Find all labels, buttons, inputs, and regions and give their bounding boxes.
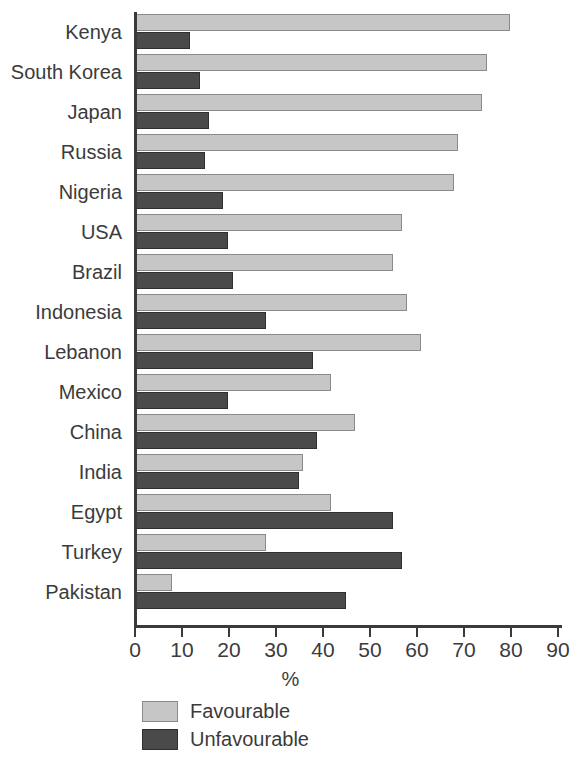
bar-unfavourable-russia: [134, 152, 205, 169]
bar-unfavourable-lebanon: [134, 352, 313, 369]
x-axis-title: %: [0, 668, 581, 691]
bar-favourable-russia: [134, 134, 458, 151]
bar-row: [134, 412, 558, 452]
bar-unfavourable-japan: [134, 112, 209, 129]
category-label-south-korea: South Korea: [11, 62, 122, 82]
x-tick: [275, 628, 277, 637]
bar-unfavourable-china: [134, 432, 317, 449]
category-label-usa: USA: [81, 222, 122, 242]
category-label-brazil: Brazil: [72, 262, 122, 282]
x-tick: [510, 628, 512, 637]
bar-row: [134, 12, 558, 52]
bar-favourable-egypt: [134, 494, 331, 511]
bar-unfavourable-nigeria: [134, 192, 223, 209]
x-tick: [557, 628, 559, 637]
category-label-kenya: Kenya: [65, 22, 122, 42]
category-label-nigeria: Nigeria: [59, 182, 122, 202]
x-tick: [181, 628, 183, 637]
legend-label: Unfavourable: [190, 728, 309, 751]
bar-favourable-nigeria: [134, 174, 454, 191]
bar-row: [134, 492, 558, 532]
category-label-russia: Russia: [61, 142, 122, 162]
x-tick: [228, 628, 230, 637]
x-tick-label: 0: [129, 638, 141, 662]
bar-unfavourable-south-korea: [134, 72, 200, 89]
legend-swatch-unfav: [142, 729, 178, 750]
bar-row: [134, 532, 558, 572]
bar-row: [134, 52, 558, 92]
bar-favourable-india: [134, 454, 303, 471]
category-label-turkey: Turkey: [62, 542, 122, 562]
bar-favourable-brazil: [134, 254, 393, 271]
category-axis-labels: KenyaSouth KoreaJapanRussiaNigeriaUSABra…: [0, 12, 128, 624]
bar-favourable-usa: [134, 214, 402, 231]
bar-row: [134, 252, 558, 292]
x-tick-label: 40: [311, 638, 334, 662]
bar-unfavourable-brazil: [134, 272, 233, 289]
x-tick: [369, 628, 371, 637]
category-label-pakistan: Pakistan: [45, 582, 122, 602]
x-tick-label: 70: [452, 638, 475, 662]
bar-row: [134, 92, 558, 132]
legend: FavourableUnfavourable: [142, 697, 309, 753]
x-tick-label: 30: [264, 638, 287, 662]
bar-row: [134, 332, 558, 372]
x-tick: [463, 628, 465, 637]
bar-favourable-kenya: [134, 14, 510, 31]
category-label-india: India: [79, 462, 122, 482]
category-label-lebanon: Lebanon: [44, 342, 122, 362]
bar-unfavourable-kenya: [134, 32, 190, 49]
bar-row: [134, 452, 558, 492]
plot-area: [134, 12, 558, 624]
legend-item-unfav: Unfavourable: [142, 725, 309, 753]
legend-swatch-fav: [142, 701, 178, 722]
x-tick-label: 80: [499, 638, 522, 662]
category-label-japan: Japan: [68, 102, 123, 122]
x-tick-label: 50: [358, 638, 381, 662]
bar-row: [134, 292, 558, 332]
bar-favourable-japan: [134, 94, 482, 111]
bar-favourable-turkey: [134, 534, 266, 551]
x-tick: [322, 628, 324, 637]
y-axis-line: [134, 12, 137, 626]
x-tick-label: 20: [217, 638, 240, 662]
bar-unfavourable-usa: [134, 232, 228, 249]
x-tick: [134, 628, 136, 637]
bar-row: [134, 572, 558, 612]
bar-row: [134, 372, 558, 412]
bar-unfavourable-turkey: [134, 552, 402, 569]
bar-favourable-lebanon: [134, 334, 421, 351]
x-tick: [416, 628, 418, 637]
category-label-egypt: Egypt: [71, 502, 122, 522]
x-tick-label: 90: [546, 638, 569, 662]
bar-unfavourable-pakistan: [134, 592, 346, 609]
bar-unfavourable-mexico: [134, 392, 228, 409]
bar-chart: KenyaSouth KoreaJapanRussiaNigeriaUSABra…: [0, 0, 581, 781]
legend-label: Favourable: [190, 700, 290, 723]
bar-favourable-mexico: [134, 374, 331, 391]
category-label-mexico: Mexico: [59, 382, 122, 402]
bar-row: [134, 132, 558, 172]
bar-favourable-south-korea: [134, 54, 487, 71]
bar-row: [134, 212, 558, 252]
bar-unfavourable-egypt: [134, 512, 393, 529]
bar-unfavourable-indonesia: [134, 312, 266, 329]
bar-favourable-pakistan: [134, 574, 172, 591]
legend-item-fav: Favourable: [142, 697, 309, 725]
x-tick-label: 10: [170, 638, 193, 662]
bar-unfavourable-india: [134, 472, 299, 489]
x-tick-label: 60: [405, 638, 428, 662]
bar-favourable-china: [134, 414, 355, 431]
category-label-china: China: [70, 422, 122, 442]
bar-row: [134, 172, 558, 212]
category-label-indonesia: Indonesia: [35, 302, 122, 322]
bar-favourable-indonesia: [134, 294, 407, 311]
x-axis-line: [134, 625, 562, 628]
